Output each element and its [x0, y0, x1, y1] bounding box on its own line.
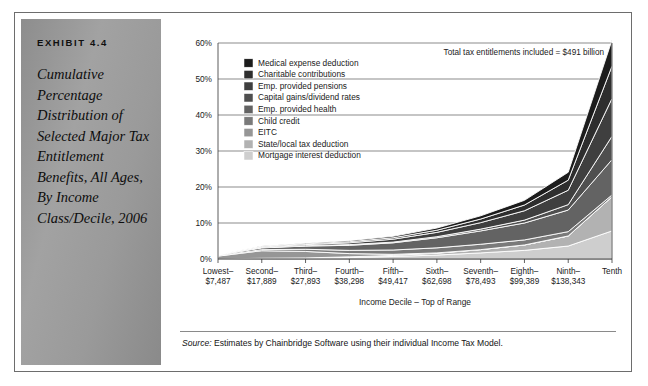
chart-plot-area: 0%10%20%30%40%50%60%Lowest–$7,487Second–…	[172, 19, 624, 309]
x-tick-name-1: Second–	[246, 267, 279, 276]
source-text: Estimates by Chainbridge Software using …	[214, 338, 503, 348]
total-entitlements-annotation: Total tax entitlements included = $491 b…	[444, 48, 605, 57]
legend-swatch-2	[244, 82, 253, 90]
source-divider	[180, 331, 616, 332]
y-tick-label-0: 0%	[200, 254, 213, 264]
x-tick-name-7: Eighth–	[511, 267, 539, 276]
legend-label-0: Medical expense deduction	[258, 58, 359, 68]
x-tick-name-0: Lowest–	[203, 267, 234, 276]
y-tick-label-1: 10%	[195, 218, 212, 228]
legend-label-5: Child credit	[258, 116, 300, 126]
x-tick-value-3: $38,298	[335, 277, 365, 286]
legend-swatch-0	[244, 59, 253, 67]
legend-swatch-8	[244, 152, 253, 160]
legend-swatch-4	[244, 105, 253, 113]
x-tick-name-2: Third–	[294, 267, 318, 276]
exhibit-number: EXHIBIT 4.4	[37, 37, 147, 48]
y-tick-label-4: 40%	[195, 110, 212, 120]
x-tick-value-7: $99,389	[510, 277, 540, 286]
legend-label-3: Capital gains/dividend rates	[258, 92, 360, 102]
y-tick-label-2: 20%	[195, 182, 212, 192]
x-tick-value-5: $62,698	[422, 277, 452, 286]
legend-swatch-7	[244, 140, 253, 148]
x-tick-name-6: Seventh–	[463, 267, 498, 276]
chart-card: 0%10%20%30%40%50%60%Lowest–$7,487Second–…	[172, 19, 624, 365]
x-tick-value-2: $27,893	[291, 277, 321, 286]
y-tick-label-6: 60%	[195, 38, 212, 48]
x-tick-name-4: Fifth–	[383, 267, 404, 276]
legend-swatch-5	[244, 117, 253, 125]
source-note: Source: Estimates by Chainbridge Softwar…	[182, 337, 618, 349]
y-tick-label-3: 30%	[195, 146, 212, 156]
x-tick-name-3: Fourth–	[335, 267, 364, 276]
x-tick-name-9: Tenth	[602, 267, 622, 276]
x-tick-name-8: Ninth–	[556, 267, 580, 276]
caption-panel: EXHIBIT 4.4 Cumulative Percentage Distri…	[21, 19, 161, 365]
y-tick-label-5: 50%	[195, 74, 212, 84]
x-tick-value-1: $17,889	[247, 277, 277, 286]
legend-label-1: Charitable contributions	[258, 69, 345, 79]
x-tick-value-0: $7,487	[205, 277, 230, 286]
x-tick-value-4: $49,417	[378, 277, 408, 286]
legend-label-7: State/local tax deduction	[258, 139, 349, 149]
legend-swatch-3	[244, 94, 253, 102]
legend-swatch-1	[244, 70, 253, 78]
legend-label-8: Mortgage interest deduction	[258, 150, 361, 160]
x-tick-name-5: Sixth–	[426, 267, 449, 276]
x-tick-value-8: $138,343	[551, 277, 586, 286]
source-prefix: Source:	[182, 338, 212, 348]
x-tick-value-6: $78,493	[466, 277, 496, 286]
cumulative-distribution-area-chart: 0%10%20%30%40%50%60%Lowest–$7,487Second–…	[172, 19, 624, 309]
exhibit-page: EXHIBIT 4.4 Cumulative Percentage Distri…	[0, 0, 648, 386]
legend-label-6: EITC	[258, 127, 277, 137]
x-axis-title: Income Decile – Top of Range	[359, 297, 471, 307]
exhibit-title: Cumulative Percentage Distribution of Se…	[37, 64, 155, 228]
legend-swatch-6	[244, 128, 253, 136]
legend-label-2: Emp. provided pensions	[258, 81, 347, 91]
legend-label-4: Emp. provided health	[258, 104, 337, 114]
